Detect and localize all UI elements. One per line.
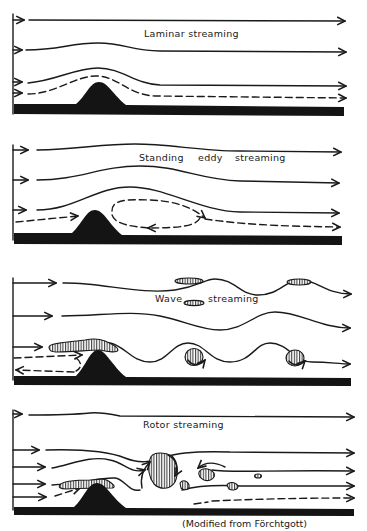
cloud-fragment <box>199 469 215 481</box>
reverse-flow-arrow <box>16 370 74 372</box>
streamline-wave <box>62 312 350 330</box>
panel-wave: Wave streaming <box>13 278 351 386</box>
cap-cloud <box>49 339 118 352</box>
cap-cloud <box>59 479 114 489</box>
panel-title-part: Standing <box>139 152 184 163</box>
cloud-fragment <box>255 474 262 478</box>
streamline <box>46 450 354 462</box>
cloud-fragment <box>180 481 189 490</box>
lenticular-cloud <box>287 279 311 285</box>
streamline <box>26 43 346 52</box>
streamline-dashed <box>194 498 354 504</box>
streamline <box>212 470 354 471</box>
streamline <box>182 485 354 490</box>
eddy-return <box>112 211 148 228</box>
panel-laminar: Laminar streaming <box>13 14 346 116</box>
panel-standing-eddy: Standing eddy streaming <box>13 144 342 245</box>
lenticular-cloud <box>175 278 203 284</box>
source-caption: (Modified from Förchtgott) <box>182 518 307 529</box>
cloud-legend-icon <box>184 300 204 305</box>
panel-title-part: streaming <box>208 293 259 304</box>
lee-return <box>76 358 81 371</box>
airflow-diagram: Laminar streaming Standing eddy streamin… <box>0 0 367 531</box>
streamline <box>29 413 354 417</box>
streamline <box>29 20 345 21</box>
streamline-dashed <box>205 219 340 227</box>
panel-title-part: eddy <box>198 152 223 163</box>
streamline-dashed <box>28 76 346 98</box>
cloud-fragment <box>227 482 238 490</box>
mountain-ground <box>14 82 344 116</box>
panel-title-part: streaming <box>235 152 286 163</box>
streamline <box>37 166 339 183</box>
streamline <box>37 187 339 213</box>
panel-rotor: Rotor streaming <box>13 410 354 516</box>
streamline-dashed <box>14 355 82 358</box>
streamline <box>28 68 346 86</box>
panel-title: Laminar streaming <box>144 28 239 39</box>
streamline-dashed <box>16 216 78 222</box>
rotor-arrow <box>198 463 225 468</box>
panel-title-part: Wave <box>155 293 182 304</box>
panel-title: Rotor streaming <box>143 419 224 430</box>
streamline <box>37 144 341 152</box>
eddy-lower-arrow <box>148 218 200 228</box>
